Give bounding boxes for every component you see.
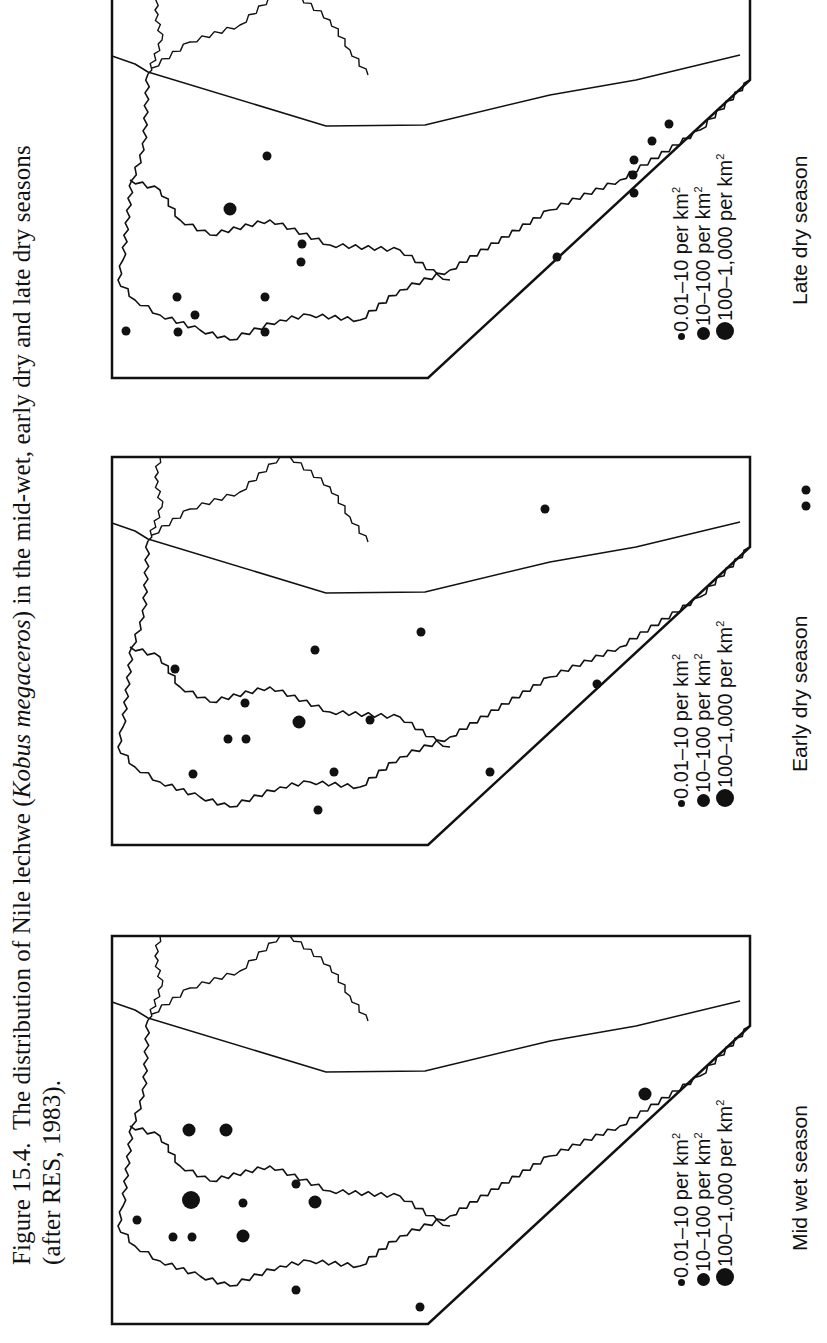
density-dot-small xyxy=(261,328,270,337)
legend-dot-icon xyxy=(697,794,710,807)
density-dot-small xyxy=(261,293,270,302)
density-dot-medium xyxy=(309,1196,322,1209)
density-dot-small xyxy=(629,171,638,180)
density-dot-medium xyxy=(183,1124,196,1137)
river-main xyxy=(118,541,750,807)
density-dot-small xyxy=(665,120,674,129)
density-dot-small xyxy=(366,716,375,725)
species-name: Kobus megaceros xyxy=(8,619,35,798)
legend-item-large: 100–1,000 per km2 xyxy=(714,621,736,807)
legend-dot-icon xyxy=(716,1268,734,1286)
legend-item-medium: 10–100 per km2 xyxy=(692,621,714,807)
density-dot-medium xyxy=(639,1088,652,1101)
legend-label: 10–100 per km2 xyxy=(692,653,715,793)
density-dot-small xyxy=(122,327,131,336)
legend-label: 0.01–10 per km2 xyxy=(670,654,693,799)
density-dot-small xyxy=(174,328,183,337)
boundary-line xyxy=(112,55,740,126)
density-dot-small xyxy=(239,1199,248,1208)
density-dot-small xyxy=(173,293,182,302)
figure-caption: Figure 15.4. The distribution of Nile le… xyxy=(0,0,110,1343)
density-dot-small xyxy=(314,806,323,815)
density-dot-small xyxy=(242,735,251,744)
river-north-3 xyxy=(290,936,368,1021)
map-panel-mid-wet: 0.01–10 per km210–100 per km2100–1,000 p… xyxy=(100,926,827,1343)
density-legend: 0.01–10 per km210–100 per km2100–1,000 p… xyxy=(670,621,736,807)
density-dot-medium xyxy=(237,1230,250,1243)
river-north-2 xyxy=(152,936,280,1014)
river-north-3 xyxy=(290,457,368,542)
density-legend: 0.01–10 per km210–100 per km2100–1,000 p… xyxy=(670,154,736,340)
legend-item-small: 0.01–10 per km2 xyxy=(670,1100,692,1286)
density-dot-small xyxy=(191,311,200,320)
river-tributary xyxy=(130,1126,450,1226)
legend-item-large: 100–1,000 per km2 xyxy=(714,154,736,340)
density-dot-small xyxy=(330,768,339,777)
legend-dot-icon xyxy=(697,327,710,340)
density-dot-small xyxy=(171,665,180,674)
density-dot-medium xyxy=(293,716,306,729)
boundary-line xyxy=(112,522,740,593)
caption-line-2: (after RES, 1983). xyxy=(38,1080,66,1265)
density-legend: 0.01–10 per km210–100 per km2100–1,000 p… xyxy=(670,1100,736,1286)
season-title: Mid wet season xyxy=(788,1105,812,1251)
legend-label: 100–1,000 per km2 xyxy=(714,1100,737,1267)
legend-dot-icon xyxy=(716,789,734,807)
legend-label: 0.01–10 per km2 xyxy=(670,187,693,332)
river-tributary xyxy=(130,180,450,280)
map-panel-early-dry: 0.01–10 per km210–100 per km2100–1,000 p… xyxy=(100,447,827,867)
map-frame xyxy=(112,936,750,1324)
density-dot-small xyxy=(648,137,657,146)
legend-label: 0.01–10 per km2 xyxy=(670,1133,693,1278)
density-dot-small xyxy=(169,1233,178,1242)
legend-item-small: 0.01–10 per km2 xyxy=(670,621,692,807)
legend-dot-icon xyxy=(678,333,685,340)
density-dot-small xyxy=(133,1216,142,1225)
density-dot-small xyxy=(189,770,198,779)
density-dot-small xyxy=(292,1286,301,1295)
legend-dot-icon xyxy=(697,1273,710,1286)
density-dot-small xyxy=(297,258,306,267)
map-frame xyxy=(112,457,750,845)
density-dot-small xyxy=(224,735,233,744)
boundary-line xyxy=(112,1001,740,1072)
density-dot-small xyxy=(802,486,811,495)
season-title: Early dry season xyxy=(788,616,812,772)
caption-line-1: Figure 15.4. The distribution of Nile le… xyxy=(8,145,36,1265)
density-dot-small xyxy=(541,505,550,514)
legend-item-large: 100–1,000 per km2 xyxy=(714,1100,736,1286)
river-main xyxy=(118,1020,750,1286)
density-dot-small xyxy=(188,1233,197,1242)
density-dot-medium xyxy=(220,1124,233,1137)
density-dot-small xyxy=(292,1180,301,1189)
legend-item-medium: 10–100 per km2 xyxy=(692,154,714,340)
density-dot-small xyxy=(416,1303,425,1312)
density-dot-small xyxy=(802,502,811,511)
legend-label: 100–1,000 per km2 xyxy=(714,154,737,321)
river-north-3 xyxy=(290,0,368,75)
legend-label: 100–1,000 per km2 xyxy=(714,621,737,788)
density-dot-small xyxy=(553,253,562,262)
density-dot-medium xyxy=(224,203,237,216)
density-dot-small xyxy=(298,240,307,249)
legend-dot-icon xyxy=(678,800,685,807)
density-dot-small xyxy=(630,156,639,165)
density-dot-small xyxy=(311,646,320,655)
density-dot-small xyxy=(593,680,602,689)
legend-label: 10–100 per km2 xyxy=(692,1132,715,1272)
legend-label: 10–100 per km2 xyxy=(692,186,715,326)
density-dot-small xyxy=(241,699,250,708)
legend-item-medium: 10–100 per km2 xyxy=(692,1100,714,1286)
river-tributary xyxy=(130,647,450,747)
density-dot-small xyxy=(417,628,426,637)
density-dot-small xyxy=(486,768,495,777)
density-dot-small xyxy=(263,152,272,161)
density-dot-small xyxy=(630,189,639,198)
legend-dot-icon xyxy=(716,322,734,340)
map-panel-late-dry: 0.01–10 per km210–100 per km2100–1,000 p… xyxy=(100,0,827,400)
density-dot-large xyxy=(182,1191,200,1209)
river-main xyxy=(118,74,750,340)
river-north-2 xyxy=(152,0,280,68)
map-frame xyxy=(112,0,750,378)
season-title: Late dry season xyxy=(788,156,812,305)
